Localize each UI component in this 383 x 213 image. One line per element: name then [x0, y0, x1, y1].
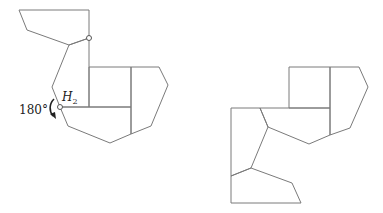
right-right-piece	[330, 67, 368, 135]
diagram-canvas: H2 180°	[0, 0, 383, 213]
left-right-piece	[131, 67, 168, 134]
curved-rotation-arrow-icon	[50, 99, 56, 119]
pivot-point-top	[87, 36, 92, 41]
left-top-piece	[19, 10, 89, 45]
right-bottom-piece	[231, 168, 301, 203]
right-square-piece	[289, 67, 330, 108]
left-figure: H2 180°	[19, 10, 168, 143]
pivot-point-h2	[58, 105, 63, 110]
right-middle-piece	[260, 108, 330, 144]
rotation-angle-label: 180°	[19, 103, 48, 117]
right-left-piece	[231, 108, 268, 176]
pivot-label-h2: H2	[61, 90, 78, 106]
left-square-piece	[89, 67, 131, 107]
right-figure	[231, 67, 368, 203]
diagram-svg: H2 180°	[0, 0, 383, 213]
left-bottom-piece	[60, 107, 131, 143]
